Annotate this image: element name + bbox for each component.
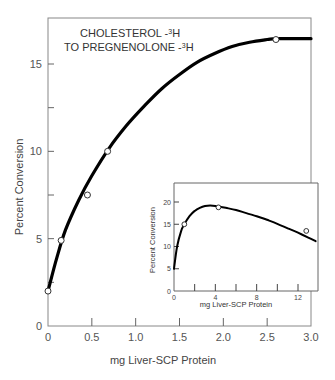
inset-y-tick-label: 0	[167, 288, 171, 295]
main-y-tick-label: 0	[36, 320, 42, 332]
inset-x-tick-label: 0	[172, 294, 176, 301]
main-y-tick-label: 15	[30, 58, 42, 70]
main-x-ticks: 00.51.01.52.02.53.0	[45, 318, 319, 343]
main-y-axis-label: Percent Conversion	[13, 139, 25, 236]
main-x-tick-label: 3.0	[303, 331, 318, 343]
main-x-tick-label: 2.5	[260, 331, 275, 343]
inset-y-axis-label: Percent Conversion	[148, 207, 157, 273]
main-data-point	[45, 288, 51, 294]
inset-data-point	[216, 205, 221, 210]
main-y-tick-label: 10	[30, 145, 42, 157]
main-data-point	[84, 192, 90, 198]
main-x-axis-label: mg Liver-SCP Protein	[110, 354, 216, 366]
main-x-tick-label: 1.0	[128, 331, 143, 343]
main-x-tick-label: 1.5	[172, 331, 187, 343]
inset-x-axis-label: mg Liver-SCP Protein	[200, 300, 272, 309]
main-x-tick-label: 0.5	[84, 331, 99, 343]
main-data-point	[105, 148, 111, 154]
inset-plot: 04812 05101520 mg Liver-SCP Protein Perc…	[148, 183, 318, 309]
inset-y-tick-label: 20	[163, 199, 171, 206]
annotation-line-1: CHOLESTEROL -3H	[80, 27, 180, 39]
main-data-point	[273, 37, 279, 43]
main-y-tick-label: 5	[36, 233, 42, 245]
inset-y-tick-label: 15	[163, 221, 171, 228]
inset-y-tick-label: 5	[167, 265, 171, 272]
inset-y-tick-label: 10	[163, 243, 171, 250]
chart-canvas: 00.51.01.52.02.53.0 051015 CHOLESTEROL -…	[0, 0, 335, 380]
inset-background	[174, 183, 318, 291]
inset-x-tick-label: 12	[294, 294, 302, 301]
main-x-tick-label: 2.0	[216, 331, 231, 343]
inset-data-point	[304, 229, 309, 234]
main-x-tick-label: 0	[45, 331, 51, 343]
inset-data-point	[182, 222, 187, 227]
annotation-line-2: TO PREGNENOLONE -3H	[64, 41, 194, 53]
main-data-point	[58, 237, 64, 243]
